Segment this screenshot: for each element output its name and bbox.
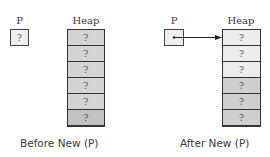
heap-cell: ? [223, 30, 260, 45]
heap-cell: ? [223, 110, 260, 125]
after-heap: ? ? ? ? ? ? [222, 29, 261, 127]
heap-cell: ? [223, 94, 260, 109]
heap-cell: ? [223, 62, 260, 77]
after-heap-label: Heap [217, 15, 265, 26]
heap-cell: ? [223, 46, 260, 61]
heap-cell: ? [223, 78, 260, 93]
after-caption: After New (P) [180, 137, 249, 149]
